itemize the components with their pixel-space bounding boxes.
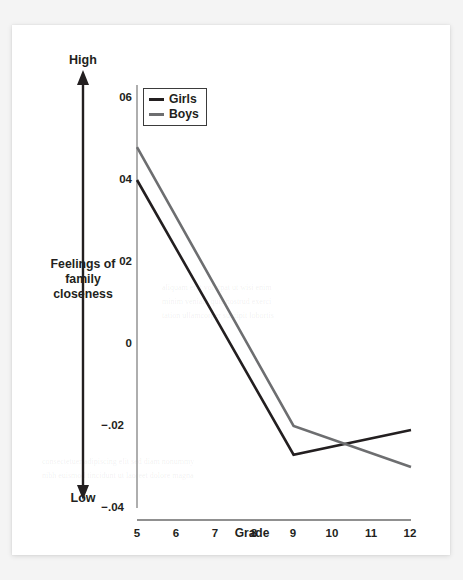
legend-label-girls: Girls <box>169 93 197 106</box>
legend-swatch-boys-icon <box>149 113 164 116</box>
line-chart-figure: aliquam erat volutpat ut wisi enim minim… <box>12 25 450 555</box>
legend-entry-girls: Girls <box>149 92 199 107</box>
legend-label-boys: Boys <box>169 108 199 121</box>
figure-card: aliquam erat volutpat ut wisi enim minim… <box>12 25 450 555</box>
plot-area <box>12 25 450 555</box>
legend-swatch-girls-icon <box>149 98 164 101</box>
chart-legend: Girls Boys <box>143 88 207 126</box>
page-background: aliquam erat volutpat ut wisi enim minim… <box>0 0 463 580</box>
legend-entry-boys: Boys <box>149 107 199 122</box>
